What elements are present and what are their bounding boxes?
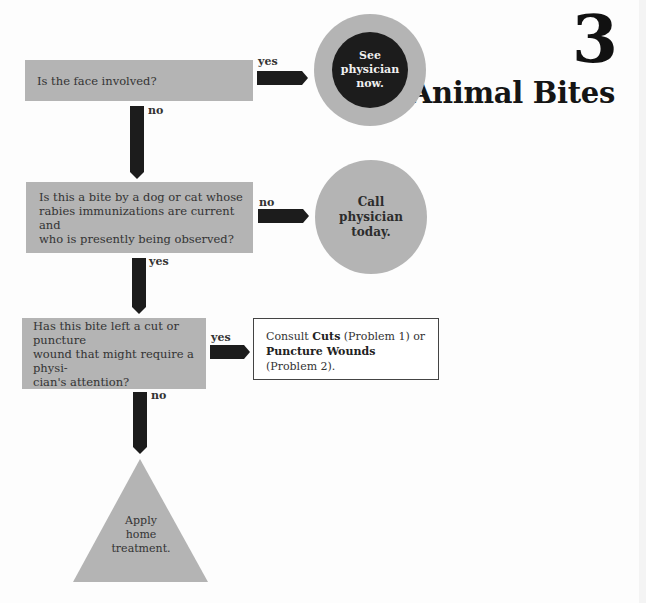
question-line: cian's attention? — [33, 375, 206, 389]
link-puncture-wounds: Puncture Wounds — [266, 345, 375, 358]
question-line: who is presently being observed? — [39, 232, 253, 246]
question-text: Is the face involved? — [37, 74, 157, 88]
outcome-line: Call — [339, 195, 403, 210]
question-line: rabies immunizations are current and — [39, 204, 253, 232]
outcome-line: Apply — [100, 514, 182, 528]
down-arrow-icon — [133, 392, 148, 455]
outcome-line: today. — [339, 225, 403, 240]
question-line: wound that might require a physi- — [33, 347, 206, 375]
outcome-line: physician — [341, 63, 399, 77]
question-box-face-involved: Is the face involved? — [25, 60, 253, 101]
page-edge — [639, 0, 646, 603]
outcome-call-physician-today: Call physician today. — [315, 160, 427, 274]
outcome-see-physician-now: See physician now. — [314, 14, 426, 126]
right-arrow-icon — [258, 209, 310, 223]
outcome-home-treatment-text: Apply home treatment. — [100, 514, 182, 556]
branch-label-no: no — [259, 196, 274, 209]
down-arrow-icon — [132, 258, 147, 315]
outcome-consult-box: Consult Cuts (Problem 1) or Puncture Wou… — [253, 318, 439, 380]
question-box-cut-or-puncture: Has this bite left a cut or puncture wou… — [22, 318, 206, 389]
right-arrow-icon — [210, 345, 251, 359]
branch-label-no: no — [148, 104, 163, 117]
question-box-rabies-current: Is this a bite by a dog or cat whose rab… — [26, 182, 253, 253]
branch-label-yes: yes — [149, 255, 169, 268]
question-line: Has this bite left a cut or puncture — [33, 319, 206, 347]
right-arrow-icon — [257, 71, 309, 85]
outcome-line: See — [341, 49, 399, 63]
branch-label-yes: yes — [211, 331, 231, 344]
urgent-center: See physician now. — [332, 32, 408, 108]
outcome-line: physician — [339, 210, 403, 225]
chapter-number: 3 — [572, 6, 618, 72]
branch-label-yes: yes — [258, 55, 278, 68]
down-arrow-icon — [130, 106, 145, 180]
outcome-line: treatment. — [100, 542, 182, 556]
link-cuts: Cuts — [312, 330, 340, 343]
outcome-line: now. — [341, 77, 399, 91]
question-line: Is this a bite by a dog or cat whose — [39, 190, 253, 204]
consult-ref2-suffix: (Problem 2). — [266, 360, 335, 373]
consult-ref1-suffix: (Problem 1) or — [340, 330, 425, 343]
consult-prefix: Consult — [266, 330, 312, 343]
branch-label-no: no — [151, 389, 166, 402]
outcome-line: home — [100, 528, 182, 542]
chapter-title: Animal Bites — [410, 77, 615, 109]
